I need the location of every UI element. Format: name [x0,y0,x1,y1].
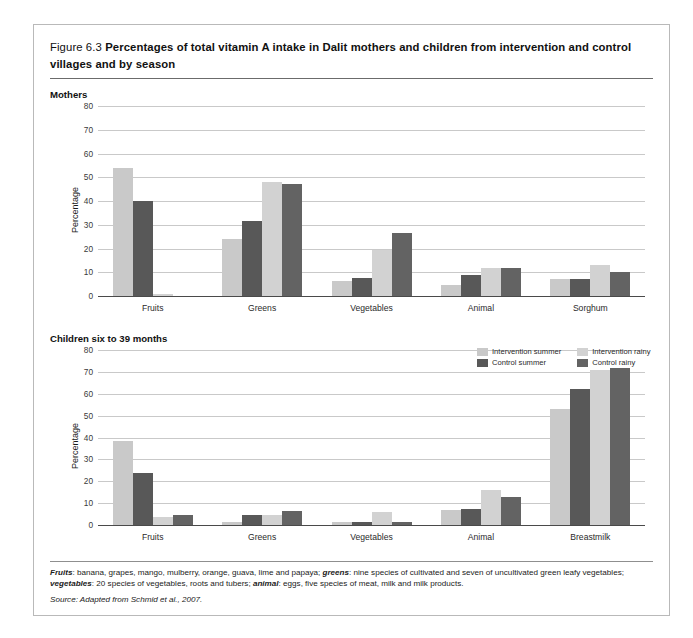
x-axis-tick-label: Fruits [98,532,207,542]
bar [550,409,570,525]
bar [222,239,242,296]
x-axis-tick-label: Fruits [98,303,207,313]
panel-heading-children: Children six to 39 months [50,333,653,344]
title-divider [50,78,653,79]
figure-number: Figure 6.3 [50,41,102,53]
x-axis-tick-label: Animal [426,532,535,542]
y-axis-label-mothers: Percentage [70,186,80,232]
x-axis-tick-label: Animal [426,303,535,313]
footnote-vegetables-text: : 20 species of vegetables, roots and tu… [92,579,253,588]
legend-item: Intervention rainy [577,347,650,356]
bar-group: Animal [426,350,535,525]
footnote-animal-text: : eggs, five species of meat, milk and m… [279,579,464,588]
bar [501,268,521,297]
bar [262,515,282,525]
bar [441,510,461,525]
bar [481,268,501,297]
source-line: Source: Adapted from Schmid et al., 2007… [50,594,653,605]
legend-swatch [577,359,588,367]
bar [222,522,242,525]
y-axis-tick: 70 [84,125,93,135]
bar-group: Fruits [98,350,207,525]
footnotes: Fruits: banana, grapes, mango, mulberry,… [50,561,653,605]
bar [392,233,412,296]
footnote-animal-label: animal [253,579,279,588]
y-axis-tick: 60 [84,389,93,399]
source-label: Source [50,595,76,604]
y-axis-tick: 70 [84,367,93,377]
bar [282,184,302,296]
bar-group: Greens [207,350,316,525]
bar [550,279,570,296]
bar [372,250,392,296]
y-axis-tick: 10 [84,267,93,277]
bar [481,490,501,525]
y-axis-tick: 20 [84,476,93,486]
bar [173,515,193,525]
y-axis-tick: 50 [84,172,93,182]
figure-title-block: Figure 6.3 Percentages of total vitamin … [50,39,653,72]
legend-swatch [477,348,488,356]
bar-groups: FruitsGreensVegetablesAnimalSorghum [98,106,645,296]
x-axis-tick-label: Vegetables [317,303,426,313]
bar [461,275,481,296]
bar [501,497,521,525]
x-axis-tick-label: Breastmilk [536,532,645,542]
bar-group: Vegetables [317,350,426,525]
footnote-greens-label: greens [323,568,350,577]
x-axis-tick-label: Greens [207,303,316,313]
bar [392,522,412,525]
y-axis-tick: 50 [84,411,93,421]
bar [113,441,133,525]
bar [590,370,610,525]
bar [372,512,392,525]
bar [610,272,630,296]
panel-heading-mothers: Mothers [50,89,653,100]
bar [133,473,153,526]
bar [610,368,630,526]
x-axis-tick-label: Greens [207,532,316,542]
bar [153,294,173,296]
bar [441,285,461,296]
legend-label: Control summer [492,358,546,367]
x-axis-tick-label: Vegetables [317,532,426,542]
bar [570,389,590,525]
bar-group: Sorghum [536,106,645,296]
y-axis-tick: 40 [84,433,93,443]
bar-group: Fruits [98,106,207,296]
y-axis-label-children: Percentage [70,423,80,469]
x-axis-tick-label: Sorghum [536,303,645,313]
y-axis-tick: 80 [84,101,93,111]
bar [242,515,262,525]
footnote-definitions: Fruits: banana, grapes, mango, mulberry,… [50,567,653,590]
footnote-fruits-label: Fruits [50,568,72,577]
bar [352,522,372,525]
bar-group: Greens [207,106,316,296]
bar [153,517,173,525]
footnote-vegetables-label: vegetables [50,579,92,588]
y-axis-tick: 30 [84,220,93,230]
bar [332,522,352,525]
legend-label: Control rainy [592,358,635,367]
bar [461,509,481,525]
legend-label: Intervention rainy [592,347,650,356]
y-axis-tick: 80 [84,345,93,355]
bar [570,279,590,296]
bar [352,278,372,296]
legend-item: Control rainy [577,358,650,367]
bar-groups: FruitsGreensVegetablesAnimalBreastmilk [98,350,645,525]
source-text: : Adapted from Schmid et al., 2007. [76,595,203,604]
bar [262,182,282,296]
bar [242,221,262,296]
bar-group: Vegetables [317,106,426,296]
bar [282,511,302,525]
footnote-divider [50,561,653,562]
bar [590,265,610,296]
y-axis-tick: 0 [88,520,93,530]
figure-container: Figure 6.3 Percentages of total vitamin … [33,24,670,616]
footnote-fruits-text: : banana, grapes, mango, mulberry, orang… [72,568,322,577]
chart-children: Percentage 01020304050607080FruitsGreens… [50,346,653,546]
y-axis-tick: 30 [84,454,93,464]
figure-title: Percentages of total vitamin A intake in… [50,41,631,70]
y-axis-tick: 0 [88,291,93,301]
